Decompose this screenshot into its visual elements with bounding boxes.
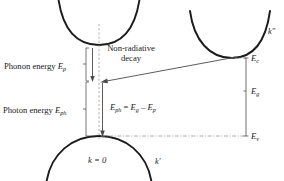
energy-level-label-Eg: Eg <box>250 86 259 97</box>
photon-energy-label: Photon energy Eph <box>3 105 66 116</box>
energy-level-label-Ev: Ev <box>250 131 259 142</box>
photon-energy-equation: Eph = Eg – Ep <box>109 102 156 113</box>
k-prime-label: k′ <box>155 157 161 166</box>
non-radiative-decay-label-line1: Non-radiative <box>107 43 155 53</box>
phonon-energy-label: Phonon energy Ep <box>4 61 66 72</box>
photon-emission-arrow <box>100 83 105 137</box>
phonon-emission-arrow <box>90 48 94 82</box>
phonon-energy-bracket <box>83 48 89 81</box>
k-double-prime-label: k″ <box>268 27 276 36</box>
energy-level-label-Ec: Ec <box>250 53 259 64</box>
photon-energy-bracket <box>83 82 89 136</box>
band-diagram-figure: Phonon energy Ep Photon energy Eph Non-r… <box>0 0 284 181</box>
k-zero-label: k = 0 <box>88 155 107 165</box>
conduction-band-indirect-curve <box>190 11 270 58</box>
energy-level-axis <box>244 58 249 136</box>
non-radiative-decay-label-line2: decay <box>121 53 142 63</box>
